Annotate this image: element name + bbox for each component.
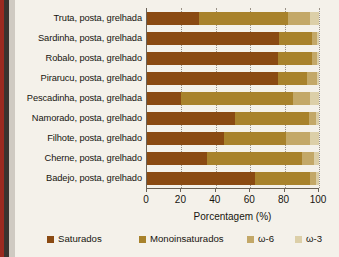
x-tick	[318, 188, 319, 192]
bar-segment	[288, 12, 310, 25]
bar-row	[147, 152, 319, 165]
bar-segment	[235, 112, 309, 125]
bar-segment	[147, 132, 224, 145]
x-axis-line	[146, 188, 319, 189]
gridline	[319, 8, 320, 188]
chart-page: Truta, posta, grelhadaSardinha, posta, g…	[0, 0, 339, 257]
bar-row	[147, 12, 319, 25]
chart-legend: SaturadosMonoinsaturadosω-6ω-3	[15, 232, 325, 248]
bar-segment	[224, 132, 286, 145]
bar-segment	[286, 132, 310, 145]
bar-segment	[147, 92, 181, 105]
x-tick	[146, 188, 147, 192]
category-label: Sardinha, posta, grelhada	[38, 29, 142, 47]
x-tick	[249, 188, 250, 192]
bar-segment	[317, 32, 319, 45]
category-label: Filhote, posta, grelhado	[47, 129, 142, 147]
bar-segment	[278, 52, 312, 65]
legend-swatch-icon	[295, 236, 302, 243]
bar-segment	[147, 112, 235, 125]
category-axis-labels: Truta, posta, grelhadaSardinha, posta, g…	[15, 8, 146, 188]
stacked-bar-chart: Truta, posta, grelhadaSardinha, posta, g…	[15, 8, 323, 194]
x-tick-label: 60	[234, 194, 264, 205]
bar-row	[147, 52, 319, 65]
bar-segment	[316, 112, 319, 125]
bar-segment	[147, 72, 278, 85]
bar-segment	[309, 112, 316, 125]
legend-label: Monoinsaturados	[150, 232, 224, 246]
x-tick	[284, 188, 285, 192]
x-tick-label: 20	[165, 194, 195, 205]
legend-swatch-icon	[47, 236, 54, 243]
bar-segment	[207, 152, 302, 165]
bar-segment	[302, 152, 314, 165]
bar-segment	[279, 32, 312, 45]
bar-segment	[310, 132, 319, 145]
category-label: Pescadinha, posta, grelhada	[27, 89, 142, 107]
legend-item[interactable]: Saturados	[47, 232, 102, 246]
legend-item[interactable]: ω-6	[247, 232, 274, 246]
bar-segment	[307, 72, 317, 85]
legend-swatch-icon	[139, 236, 146, 243]
bar-segment	[147, 172, 255, 185]
bar-segment	[181, 92, 293, 105]
x-tick-label: 100	[303, 194, 333, 205]
bar-segment	[278, 72, 307, 85]
legend-swatch-icon	[247, 236, 254, 243]
category-label: Namorado, posta, grelhado	[32, 109, 142, 127]
category-label: Robalo, posta, grelhado	[46, 49, 142, 67]
legend-label: ω-3	[306, 232, 322, 246]
bar-segment	[255, 172, 310, 185]
bar-segment	[310, 12, 319, 25]
legend-label: Saturados	[58, 232, 102, 246]
legend-label: ω-6	[258, 232, 274, 246]
plot-area	[146, 8, 319, 188]
bar-row	[147, 32, 319, 45]
category-label: Cherne, posta, grelhado	[45, 149, 142, 167]
bar-segment	[147, 52, 278, 65]
x-tick	[180, 188, 181, 192]
bar-segment	[317, 72, 319, 85]
bar-row	[147, 132, 319, 145]
bar-row	[147, 72, 319, 85]
legend-item[interactable]: ω-3	[295, 232, 322, 246]
x-tick-label: 40	[200, 194, 230, 205]
x-tick-label: 80	[269, 194, 299, 205]
chart-container: Truta, posta, grelhadaSardinha, posta, g…	[15, 4, 339, 257]
x-tick-label: 0	[131, 194, 161, 205]
category-label: Truta, posta, grelhada	[54, 9, 142, 27]
bar-segment	[310, 92, 319, 105]
bar-segment	[147, 12, 199, 25]
bar-row	[147, 112, 319, 125]
bar-segment	[314, 152, 319, 165]
bar-segment	[317, 52, 319, 65]
bar-segment	[293, 92, 310, 105]
bar-row	[147, 92, 319, 105]
bar-segment	[199, 12, 288, 25]
bar-segment	[147, 152, 207, 165]
bar-row	[147, 172, 319, 185]
x-axis-title: Porcentagem (%)	[146, 211, 319, 222]
category-label: Badejo, posta, grelhado	[46, 169, 142, 187]
legend-item[interactable]: Monoinsaturados	[139, 232, 224, 246]
bar-segment	[316, 172, 319, 185]
category-label: Pirarucu, posta, grelhado	[41, 69, 142, 87]
x-tick	[215, 188, 216, 192]
bar-segment	[147, 32, 279, 45]
